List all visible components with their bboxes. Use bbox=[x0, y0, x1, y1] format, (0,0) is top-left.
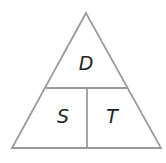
label-speed: S bbox=[57, 105, 69, 127]
label-time: T bbox=[106, 105, 119, 127]
label-distance: D bbox=[79, 52, 94, 74]
dst-triangle-diagram: D S T bbox=[0, 0, 166, 163]
